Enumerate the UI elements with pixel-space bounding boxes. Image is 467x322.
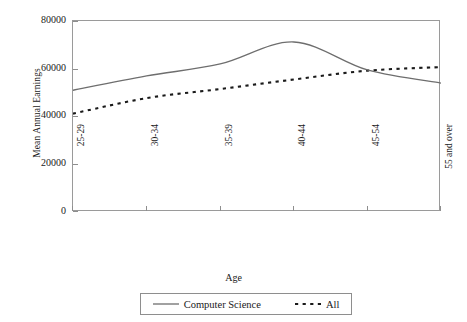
x-tick-label-45-54: 45-54	[371, 124, 381, 214]
solid-line-swatch	[153, 300, 179, 308]
x-axis-title: Age	[0, 272, 467, 283]
legend-entry-all: All	[295, 299, 339, 310]
legend-label-computer-science: Computer Science	[184, 299, 261, 310]
line-chart-figure: Mean Annual Earnings 80000 60000 40000 2…	[0, 0, 467, 322]
legend-entry-computer-science: Computer Science	[153, 299, 261, 310]
dotted-line-swatch	[295, 300, 321, 308]
x-tick-label-35-39: 35-39	[224, 124, 234, 214]
chart-legend: Computer Science All	[140, 293, 352, 315]
legend-label-all: All	[326, 299, 339, 310]
x-tick-label-40-44: 40-44	[297, 124, 307, 214]
x-tick-label-25-29: 25-29	[76, 124, 86, 214]
x-tick-label-55-and-over: 55 and over	[444, 124, 454, 214]
x-tick-label-30-34: 30-34	[150, 124, 160, 214]
